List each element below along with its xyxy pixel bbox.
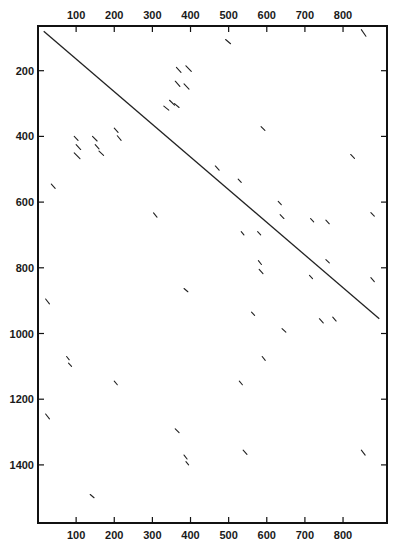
match-segment [95, 145, 99, 149]
x-tick-label-top: 700 [296, 9, 314, 21]
match-segment [326, 220, 329, 224]
x-tick-label-bottom: 800 [334, 529, 352, 541]
main-diagonal-line [44, 31, 380, 318]
match-segment [154, 213, 157, 217]
match-segment [282, 329, 286, 333]
match-segment [258, 261, 261, 265]
match-segment [186, 66, 191, 72]
match-segment [262, 356, 265, 360]
x-tick-label-top: 300 [143, 9, 161, 21]
match-segment [326, 260, 329, 263]
match-segment [114, 381, 117, 385]
match-segment [241, 232, 244, 235]
match-segment [74, 153, 80, 159]
match-segment [93, 136, 98, 141]
x-axis-bottom: 100200300400500600700800 [67, 517, 352, 541]
match-segment [186, 462, 189, 465]
x-tick-label-top: 400 [181, 9, 199, 21]
match-segment [175, 429, 179, 433]
match-segment [239, 381, 242, 385]
match-segment [51, 184, 55, 188]
match-segment [243, 450, 247, 454]
x-tick-label-bottom: 700 [296, 529, 314, 541]
match-segment [67, 356, 70, 359]
match-segment [215, 166, 219, 170]
x-tick-label-bottom: 300 [143, 529, 161, 541]
match-segment [252, 312, 255, 315]
match-segment [175, 104, 180, 108]
match-segment [351, 154, 355, 158]
y-tick-label: 800 [16, 262, 34, 274]
match-segment [259, 269, 263, 273]
match-segment [361, 30, 366, 37]
plot-marks [44, 30, 380, 498]
x-tick-label-top: 100 [67, 9, 85, 21]
match-segment [175, 81, 180, 86]
match-segment [90, 494, 94, 497]
match-segment [184, 455, 187, 459]
x-tick-label-top: 600 [258, 9, 276, 21]
match-segment [258, 232, 261, 235]
x-tick-label-top: 500 [219, 9, 237, 21]
match-segment [333, 317, 336, 321]
match-segment [226, 39, 231, 43]
y-tick-label: 200 [16, 65, 34, 77]
match-segment [309, 275, 312, 278]
match-segment [361, 450, 365, 455]
match-segment [117, 136, 121, 141]
x-tick-label-top: 200 [105, 9, 123, 21]
x-axis-top: 100200300400500600700800 [67, 9, 352, 32]
match-segment [46, 299, 50, 304]
y-tick-label: 1400 [10, 459, 34, 471]
dot-plot-chart: 100200300400500600700800 100200300400500… [0, 0, 400, 550]
y-tick-label: 600 [16, 196, 34, 208]
match-segment [238, 179, 241, 182]
match-segment [46, 414, 50, 419]
match-segment [114, 128, 118, 132]
match-segment [184, 288, 188, 291]
match-segment [311, 219, 314, 222]
match-segment [261, 127, 265, 131]
match-segment [319, 319, 323, 323]
match-segment [69, 363, 72, 366]
y-tick-label: 1200 [10, 393, 34, 405]
plot-frame [38, 26, 387, 523]
y-tick-label: 400 [16, 130, 34, 142]
x-tick-label-bottom: 100 [67, 529, 85, 541]
y-tick-label: 1000 [10, 328, 34, 340]
match-segment [176, 67, 181, 72]
x-tick-label-bottom: 600 [258, 529, 276, 541]
match-segment [184, 84, 189, 89]
match-segment [74, 136, 78, 140]
match-segment [371, 278, 374, 282]
match-segment [99, 151, 104, 155]
match-segment [170, 100, 175, 105]
match-segment [164, 106, 169, 110]
match-segment [76, 145, 81, 150]
x-tick-label-bottom: 500 [219, 529, 237, 541]
x-tick-label-top: 800 [334, 9, 352, 21]
match-segment [371, 213, 374, 217]
match-segment [280, 215, 284, 219]
match-segment [278, 201, 281, 204]
x-tick-label-bottom: 200 [105, 529, 123, 541]
x-tick-label-bottom: 400 [181, 529, 199, 541]
